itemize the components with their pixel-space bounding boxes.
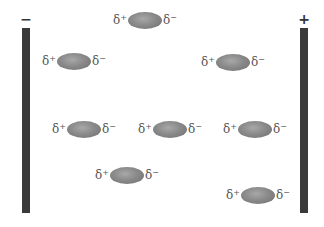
partial-negative-label: δ−	[251, 56, 265, 68]
partial-negative-label: δ−	[145, 169, 159, 181]
molecule-ellipse-icon	[241, 187, 275, 204]
partial-negative-label: δ−	[276, 189, 290, 201]
polar-molecule: δ+δ−	[226, 186, 290, 204]
partial-positive-label: δ+	[113, 14, 127, 26]
molecule-ellipse-icon	[67, 121, 101, 138]
polar-molecule: δ+δ−	[138, 120, 202, 138]
molecule-ellipse-icon	[57, 53, 91, 70]
molecule-ellipse-icon	[128, 12, 162, 29]
molecule-ellipse-icon	[216, 54, 250, 71]
partial-negative-label: δ−	[273, 123, 287, 135]
polar-molecule: δ+δ−	[52, 120, 116, 138]
polar-molecule: δ+δ−	[95, 166, 159, 184]
negative-plate-sign: −	[20, 12, 32, 26]
molecule-ellipse-icon	[238, 121, 272, 138]
positive-plate-sign: +	[298, 12, 310, 26]
partial-positive-label: δ+	[226, 189, 240, 201]
negative-plate	[22, 28, 30, 213]
polar-molecule: δ+δ−	[201, 53, 265, 71]
partial-positive-label: δ+	[138, 123, 152, 135]
positive-plate	[300, 28, 308, 213]
partial-positive-label: δ+	[201, 56, 215, 68]
polar-molecule: δ+δ−	[223, 120, 287, 138]
molecule-ellipse-icon	[153, 121, 187, 138]
partial-negative-label: δ−	[163, 14, 177, 26]
partial-positive-label: δ+	[223, 123, 237, 135]
partial-positive-label: δ+	[95, 169, 109, 181]
partial-positive-label: δ+	[52, 123, 66, 135]
partial-negative-label: δ−	[102, 123, 116, 135]
polar-molecule: δ+δ−	[42, 52, 106, 70]
polar-molecule: δ+δ−	[113, 11, 177, 29]
partial-negative-label: δ−	[92, 55, 106, 67]
partial-negative-label: δ−	[188, 123, 202, 135]
partial-positive-label: δ+	[42, 55, 56, 67]
molecule-ellipse-icon	[110, 167, 144, 184]
